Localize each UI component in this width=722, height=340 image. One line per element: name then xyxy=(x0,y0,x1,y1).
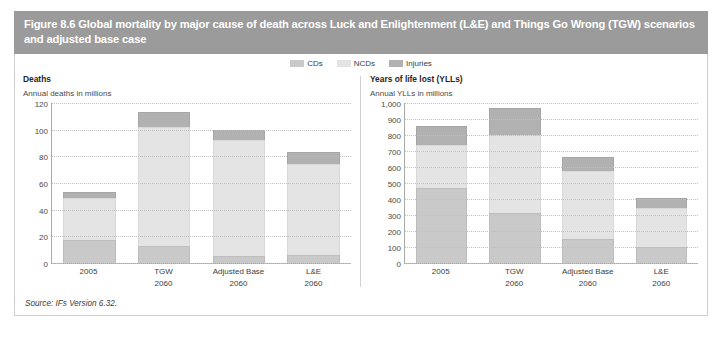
bar-segment-cds[interactable] xyxy=(562,239,613,263)
gridline: 900 xyxy=(405,119,698,120)
y-tick-label: 80 xyxy=(39,153,52,162)
x-axis-labels-deaths: 2005TGW2060Adjusted Base2060L&E2060 xyxy=(51,266,351,289)
x-tick-label: TGW2060 xyxy=(479,266,550,289)
y-tick-label: 20 xyxy=(39,233,52,242)
bar-segment-injuries[interactable] xyxy=(287,152,339,164)
legend-swatch-cds xyxy=(290,60,304,67)
x-tick-label-main: TGW xyxy=(479,266,550,278)
y-tick-label: 800 xyxy=(388,132,405,141)
x-tick-label-main: TGW xyxy=(128,266,200,278)
x-tick-label: 2005 xyxy=(53,266,125,289)
x-tick-label-main: 2005 xyxy=(405,266,476,278)
x-tick-label: Adjusted Base2060 xyxy=(203,266,275,289)
gridline: 120 xyxy=(52,103,351,104)
bar-segment-cds[interactable] xyxy=(489,213,540,263)
gridline: 700 xyxy=(405,151,698,152)
gridline: 200 xyxy=(405,231,698,232)
gridline: 100 xyxy=(52,130,351,131)
bar-segment-ncds[interactable] xyxy=(138,127,190,246)
x-tick-label-main: 2005 xyxy=(53,266,125,278)
y-tick-label: 400 xyxy=(388,196,405,205)
x-tick-label-sub: 2060 xyxy=(552,278,623,290)
legend-swatch-ncds xyxy=(337,60,351,67)
x-tick-label: Adjusted Base2060 xyxy=(552,266,623,289)
y-tick-label: 100 xyxy=(35,126,52,135)
figure-container: Figure 8.6 Global mortality by major cau… xyxy=(14,11,708,327)
x-tick-label-main: Adjusted Base xyxy=(552,266,623,278)
chart-subtitle-deaths: Annual deaths in millions xyxy=(23,89,353,100)
x-tick-label-sub: 2060 xyxy=(479,278,550,290)
gridline: 60 xyxy=(52,183,351,184)
panel-divider xyxy=(360,76,361,287)
gridline: 0 xyxy=(52,263,351,264)
x-tick-label-main: L&E xyxy=(278,266,350,278)
legend-item-ncds: NCDs xyxy=(337,59,375,68)
gridline: 600 xyxy=(405,167,698,168)
x-tick-label-main: L&E xyxy=(626,266,697,278)
plot-ylls: 01002003004005006007008009001,000 xyxy=(404,103,698,264)
x-tick-label: L&E2060 xyxy=(278,266,350,289)
y-tick-label: 500 xyxy=(388,180,405,189)
x-tick-label: 2005 xyxy=(405,266,476,289)
y-tick-label: 700 xyxy=(388,148,405,157)
gridline: 800 xyxy=(405,135,698,136)
y-tick-label: 300 xyxy=(388,212,405,221)
source-note: Source: IFs Version 6.32. xyxy=(25,299,117,308)
bar-segment-injuries[interactable] xyxy=(213,130,265,141)
x-tick-label-sub: 2060 xyxy=(626,278,697,290)
y-tick-label: 120 xyxy=(35,100,52,109)
legend-label-injuries: Injuries xyxy=(406,59,432,68)
bar-segment-ncds[interactable] xyxy=(63,198,115,241)
x-axis-labels-ylls: 2005TGW2060Adjusted Base2060L&E2060 xyxy=(404,266,698,289)
y-tick-label: 900 xyxy=(388,116,405,125)
plot-area-deaths: 020406080100120 2005TGW2060Adjusted Base… xyxy=(23,103,353,293)
gridline: 40 xyxy=(52,210,351,211)
bar-segment-cds[interactable] xyxy=(138,246,190,263)
x-tick-label: TGW2060 xyxy=(128,266,200,289)
bar-segment-injuries[interactable] xyxy=(562,157,613,171)
bar-segment-ncds[interactable] xyxy=(213,140,265,256)
chart-panel-deaths: Deaths Annual deaths in millions 0204060… xyxy=(23,74,353,290)
x-tick-label-sub: 2060 xyxy=(128,278,200,290)
legend-swatch-injuries xyxy=(389,60,403,67)
y-tick-label: 600 xyxy=(388,164,405,173)
y-tick-label: 100 xyxy=(388,244,405,253)
gridline: 80 xyxy=(52,156,351,157)
y-tick-label: 200 xyxy=(388,228,405,237)
chart-legend: CDs NCDs Injuries xyxy=(15,59,707,68)
legend-item-injuries: Injuries xyxy=(389,59,432,68)
chart-title-deaths: Deaths xyxy=(23,74,353,85)
legend-item-cds: CDs xyxy=(290,59,323,68)
gridline: 20 xyxy=(52,236,351,237)
figure-body: CDs NCDs Injuries Deaths Annual deaths i… xyxy=(14,54,708,316)
bar-segment-cds[interactable] xyxy=(213,256,265,263)
bar-segment-injuries[interactable] xyxy=(138,112,190,127)
chart-panel-ylls: Years of life lost (YLLs) Annual YLLs in… xyxy=(370,74,700,290)
plot-deaths: 020406080100120 xyxy=(51,103,351,264)
chart-subtitle-ylls: Annual YLLs in millions xyxy=(370,89,700,100)
bar-segment-ncds[interactable] xyxy=(636,208,687,247)
gridline: 500 xyxy=(405,183,698,184)
x-tick-label-sub: 2060 xyxy=(203,278,275,290)
bar-segment-injuries[interactable] xyxy=(489,108,540,135)
plot-area-ylls: 01002003004005006007008009001,000 2005TG… xyxy=(370,103,700,293)
bar-segment-ncds[interactable] xyxy=(562,171,613,239)
bar-segment-cds[interactable] xyxy=(63,240,115,263)
x-tick-label-sub: 2060 xyxy=(278,278,350,290)
y-tick-label: 1,000 xyxy=(381,100,405,109)
gridline: 300 xyxy=(405,215,698,216)
chart-title-ylls: Years of life lost (YLLs) xyxy=(370,74,700,85)
bar-segment-cds[interactable] xyxy=(636,247,687,263)
gridline: 100 xyxy=(405,247,698,248)
x-tick-label-main: Adjusted Base xyxy=(203,266,275,278)
bar-segment-ncds[interactable] xyxy=(489,135,540,213)
gridline: 400 xyxy=(405,199,698,200)
gridline: 0 xyxy=(405,263,698,264)
legend-label-ncds: NCDs xyxy=(354,59,375,68)
y-tick-label: 40 xyxy=(39,206,52,215)
bar-segment-cds[interactable] xyxy=(287,255,339,263)
legend-label-cds: CDs xyxy=(307,59,323,68)
y-tick-label: 60 xyxy=(39,180,52,189)
gridline: 1,000 xyxy=(405,103,698,104)
x-tick-label: L&E2060 xyxy=(626,266,697,289)
